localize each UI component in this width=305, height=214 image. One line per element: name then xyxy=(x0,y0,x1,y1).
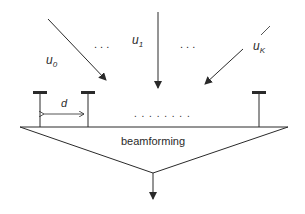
ellipsis-right: . . . xyxy=(180,38,195,50)
beamforming-diagram: u0 u1 uK . . . . . . . . . . . . . . d b… xyxy=(0,0,305,214)
antenna-element-k xyxy=(252,91,266,127)
signal-arrow-uk xyxy=(205,49,243,84)
spacing-label: d xyxy=(61,97,68,109)
ellipsis-left: . . . xyxy=(94,38,109,50)
ellipsis-array: . . . . . . . . xyxy=(134,108,191,119)
beamforming-label: beamforming xyxy=(121,135,185,147)
antenna-element-1 xyxy=(81,91,95,127)
signal-label-u0: u0 xyxy=(46,53,58,69)
beamforming-block xyxy=(20,127,288,173)
uk-label-tick xyxy=(261,26,270,35)
antenna-element-0 xyxy=(33,91,47,127)
signal-label-u1: u1 xyxy=(132,33,143,49)
signal-label-uk: uK xyxy=(253,39,266,55)
